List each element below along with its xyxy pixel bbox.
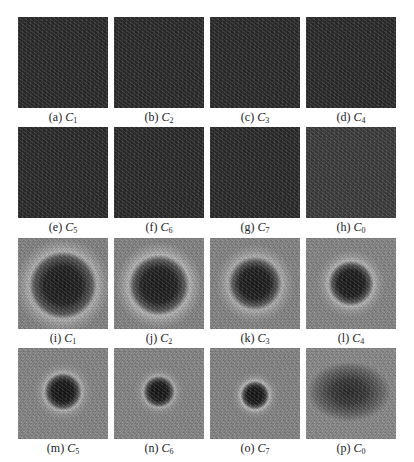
subfigure-j: (j) C2 [114, 238, 204, 345]
subfigure-caption: (b) C2 [144, 110, 173, 124]
subfigure-image [306, 348, 396, 439]
subfigure-o: (o) C7 [210, 348, 300, 455]
subfigure-image [210, 348, 300, 439]
subfigure-a: (a) C1 [18, 17, 108, 124]
subfigure-image [18, 238, 108, 329]
subfigure-caption: (p) C0 [336, 441, 365, 455]
subfigure-k: (k) C3 [210, 238, 300, 345]
subfigure-h: (h) C0 [306, 127, 396, 234]
figure-row-4: (m) C5 (n) C6 (o) C7 (p) C0 [18, 348, 398, 455]
subfigure-b: (b) C2 [114, 17, 204, 124]
subfigure-image [114, 348, 204, 439]
subfigure-caption: (k) C3 [240, 331, 269, 345]
subfigure-e: (e) C5 [18, 127, 108, 234]
subfigure-f: (f) C6 [114, 127, 204, 234]
figure-row-2: (e) C5 (f) C6 (g) C7 (h) C0 [18, 127, 398, 234]
subfigure-caption: (i) C1 [50, 331, 76, 345]
subfigure-g: (g) C7 [210, 127, 300, 234]
subfigure-caption: (g) C7 [240, 220, 269, 234]
subfigure-caption: (n) C6 [144, 441, 173, 455]
subfigure-image [210, 238, 300, 329]
subfigure-d: (d) C4 [306, 17, 396, 124]
subfigure-image [18, 17, 108, 108]
figure-row-1: (a) C1 (b) C2 (c) C3 (d) C4 [18, 17, 398, 124]
subfigure-caption: (o) C7 [240, 441, 269, 455]
subfigure-i: (i) C1 [18, 238, 108, 345]
subfigure-c: (c) C3 [210, 17, 300, 124]
subfigure-caption: (m) C5 [47, 441, 79, 455]
subfigure-caption: (j) C2 [146, 331, 172, 345]
subfigure-m: (m) C5 [18, 348, 108, 455]
subfigure-image [306, 17, 396, 108]
subfigure-n: (n) C6 [114, 348, 204, 455]
subfigure-caption: (d) C4 [336, 110, 365, 124]
subfigure-image [114, 17, 204, 108]
subfigure-image [114, 127, 204, 218]
subfigure-image [18, 348, 108, 439]
subfigure-caption: (l) C4 [338, 331, 364, 345]
subfigure-p: (p) C0 [306, 348, 396, 455]
subfigure-image [210, 127, 300, 218]
subfigure-image [210, 17, 300, 108]
subfigure-image [306, 238, 396, 329]
subfigure-caption: (f) C6 [145, 220, 172, 234]
subfigure-image [18, 127, 108, 218]
subfigure-caption: (a) C1 [49, 110, 77, 124]
subfigure-image [114, 238, 204, 329]
subfigure-l: (l) C4 [306, 238, 396, 345]
figure-grid: (a) C1 (b) C2 (c) C3 (d) C4 [18, 17, 398, 455]
figure-row-3: (i) C1 (j) C2 (k) C3 (l) C4 [18, 238, 398, 345]
subfigure-caption: (c) C3 [241, 110, 269, 124]
subfigure-image [306, 127, 396, 218]
subfigure-caption: (h) C0 [336, 220, 365, 234]
subfigure-caption: (e) C5 [49, 220, 77, 234]
